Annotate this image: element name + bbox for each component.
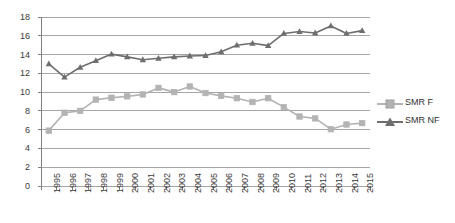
x-axis-tick-label: 2011: [304, 174, 313, 193]
x-axis-tick-label: 2000: [131, 173, 140, 193]
x-axis-tick-label: 2009: [272, 173, 281, 193]
chart-legend: SMR F SMR NF: [377, 93, 455, 129]
legend-item-smr-f[interactable]: SMR F: [377, 93, 455, 111]
x-axis-tick-label: 1997: [84, 173, 93, 193]
x-axis-tick-label: 2015: [366, 173, 375, 193]
x-axis-tick-label: 2004: [194, 173, 203, 193]
x-axis-tick-label: 2003: [178, 173, 187, 193]
chart-container: 181614121086420 199519961997199819992000…: [0, 0, 455, 223]
legend-label-smr-nf: SMR NF: [405, 115, 440, 125]
legend-label-smr-f: SMR F: [405, 97, 433, 107]
legend-item-smr-nf[interactable]: SMR NF: [377, 111, 455, 129]
legend-swatch-square-icon: [377, 96, 403, 108]
x-axis-tick-label: 2013: [335, 173, 344, 193]
x-axis-tick-label: 2012: [319, 173, 328, 193]
x-axis-tick-label: 1999: [116, 173, 125, 193]
legend-swatch-triangle-icon: [377, 114, 403, 126]
x-axis-tick-label: 2002: [163, 173, 172, 193]
x-axis-tick-label: 2014: [351, 173, 360, 193]
x-axis-tick-label: 1996: [69, 173, 78, 193]
x-axis-tick-label: 1995: [53, 173, 62, 193]
x-axis-tick-label: 2010: [288, 173, 297, 193]
x-axis-tick-label: 2005: [210, 173, 219, 193]
x-axis-tick-label: 2001: [147, 173, 156, 193]
x-axis-tick-label: 1998: [100, 173, 109, 193]
x-axis-tick-label: 2008: [257, 173, 266, 193]
x-axis-tick-label: 2007: [241, 173, 250, 193]
x-axis-tick-label: 2006: [225, 173, 234, 193]
